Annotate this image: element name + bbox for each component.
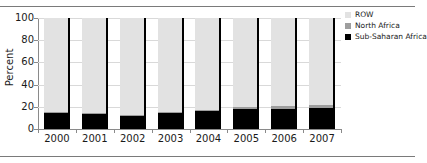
bar-segment [120,115,146,116]
bar-2001[interactable] [82,18,108,129]
chart-legend: ROWNorth AfricaSub-Saharan Africa [345,10,415,43]
bar-2007[interactable] [309,18,335,129]
y-tick-label: 80 [21,35,34,45]
bar-2002[interactable] [120,18,146,129]
bar-edge-line [144,18,146,129]
bar-2003[interactable] [158,18,184,129]
bottom-divider-rule [0,156,415,157]
bar-edge-line [106,18,108,129]
y-tick-mark [34,18,38,19]
bar-2006[interactable] [271,18,297,129]
bar-segment [195,18,221,110]
bar-segment [82,113,108,114]
bar-segment [309,108,335,129]
x-tick-mark [227,129,228,133]
legend-label: ROW [355,10,374,19]
x-tick-mark [190,129,191,133]
legend-item[interactable]: ROW [345,10,415,19]
bar-segment [271,18,297,106]
bar-edge-line [182,18,184,129]
x-tick-mark [341,129,342,133]
bar-segment [158,18,184,112]
y-tick-label: 60 [21,57,34,67]
legend-label: North Africa [355,21,400,30]
bar-segment [120,116,146,129]
bar-segment [82,113,108,129]
x-tick-mark [38,129,39,133]
bar-segment [158,112,184,113]
y-tick-label: 40 [21,80,34,90]
plot-area [38,18,341,129]
bar-segment [44,18,70,112]
bar-edge-line [68,18,70,129]
bar-segment [120,18,146,115]
bar-2005[interactable] [233,18,259,129]
y-tick-mark [34,40,38,41]
top-divider-rule [0,6,415,7]
y-tick-label: 20 [21,102,34,112]
bar-segment [44,112,70,129]
x-tick-mark [152,129,153,133]
legend-label: Sub-Saharan Africa [355,32,427,41]
bar-segment [158,112,184,129]
bar-segment [309,105,335,108]
bar-segment [82,18,108,113]
bar-edge-line [257,18,259,129]
x-tick-mark [265,129,266,133]
bar-segment [195,110,221,112]
bar-edge-line [295,18,297,129]
x-tick-mark [76,129,77,133]
x-tick-mark [114,129,115,133]
legend-swatch-icon [345,34,351,40]
y-tick-label: 100 [15,13,34,23]
bar-segment [233,109,259,129]
bar-segment [233,18,259,107]
legend-swatch-icon [345,12,351,18]
y-tick-mark [34,62,38,63]
bar-segment [271,106,297,109]
y-tick-mark [34,85,38,86]
y-axis-tick-labels: 020406080100 [0,0,34,163]
legend-item[interactable]: North Africa [345,21,415,30]
x-tick-label-2007: 2007 [300,133,344,144]
bar-segment [271,109,297,129]
bar-edge-line [219,18,221,129]
legend-item[interactable]: Sub-Saharan Africa [345,32,415,41]
bar-2000[interactable] [44,18,70,129]
bar-segment [309,18,335,105]
bar-edge-line [333,18,335,129]
x-tick-mark [303,129,304,133]
bar-segment [195,111,221,129]
bar-2004[interactable] [195,18,221,129]
bar-segment [44,112,70,113]
y-tick-mark [34,107,38,108]
bar-segment [233,107,259,109]
legend-swatch-icon [345,23,351,29]
